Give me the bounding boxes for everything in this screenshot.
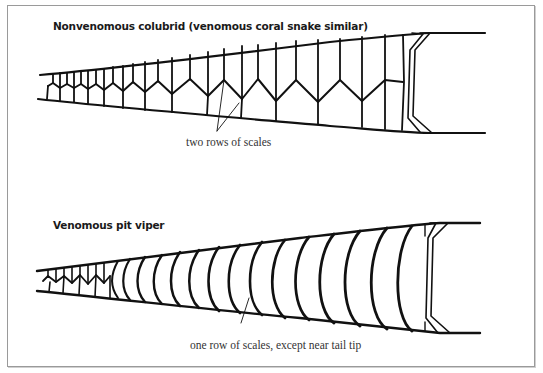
- colubrid-tail-illustration: [38, 33, 485, 133]
- pit-viper-tail-illustration: [37, 223, 480, 333]
- snake-illustrations: [0, 0, 543, 373]
